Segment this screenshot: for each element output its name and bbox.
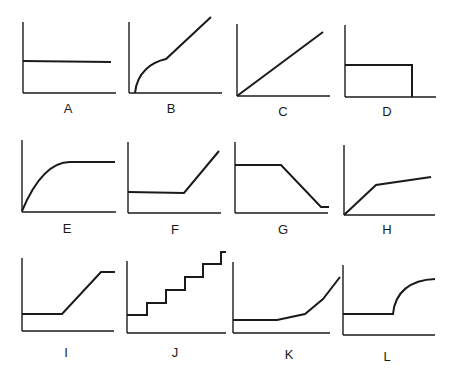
panel-label-d: D	[377, 104, 397, 119]
graph-panel-g	[235, 142, 329, 213]
graph-panel-k	[233, 262, 340, 333]
curve-line	[135, 17, 211, 93]
figure-canvas	[0, 0, 452, 373]
graph-panel-b	[129, 17, 222, 93]
panel-label-l: L	[377, 349, 397, 364]
graph-panel-c	[237, 24, 330, 96]
curve-line	[344, 177, 431, 215]
panel-label-c: C	[273, 104, 293, 119]
curve-line	[127, 252, 226, 315]
panel-label-f: F	[165, 222, 185, 237]
graph-panel-i	[22, 258, 115, 331]
curve-line	[23, 61, 111, 62]
curve-line	[237, 32, 323, 96]
panel-label-g: G	[273, 222, 293, 237]
graph-panel-e	[22, 140, 116, 212]
graph-panel-a	[23, 22, 116, 93]
curve-line	[345, 65, 412, 97]
panel-label-h: H	[377, 222, 397, 237]
panels-group	[22, 17, 436, 335]
curve-line	[343, 279, 435, 314]
curve-line	[235, 165, 329, 207]
curve-line	[22, 272, 115, 314]
graph-panel-l	[343, 265, 435, 335]
curve-line	[22, 162, 115, 211]
panel-label-a: A	[58, 101, 78, 116]
panel-label-k: K	[279, 347, 299, 362]
graph-panel-d	[345, 25, 436, 97]
curve-line	[233, 277, 340, 320]
panel-label-b: B	[161, 101, 181, 116]
graph-panel-j	[127, 252, 226, 333]
panel-label-i: I	[56, 345, 76, 360]
panel-label-e: E	[57, 221, 77, 236]
graph-panel-f	[128, 142, 221, 213]
panel-label-j: J	[165, 345, 185, 360]
graph-panel-h	[344, 145, 435, 215]
curve-line	[128, 151, 219, 193]
